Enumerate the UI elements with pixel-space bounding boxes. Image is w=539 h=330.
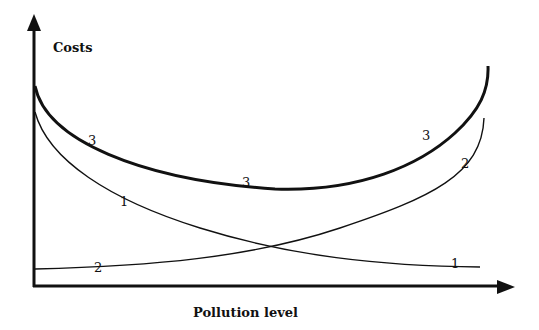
y-axis-title: Costs (53, 40, 93, 55)
curve-3-label-right: 3 (422, 128, 430, 143)
curve-1 (35, 112, 480, 267)
curve-2-label-left: 2 (94, 260, 102, 275)
curve-2 (35, 118, 484, 269)
curve-3-label-left: 3 (88, 133, 96, 148)
curve-2-label-right: 2 (461, 156, 469, 171)
x-axis-title: Pollution level (193, 305, 298, 320)
cost-curves-diagram: 3 3 3 1 1 2 2 Costs Pollution level (0, 0, 539, 330)
x-axis (33, 280, 515, 294)
y-axis-arrow-icon (27, 14, 41, 31)
y-axis (27, 14, 41, 287)
curve-1-label-right: 1 (451, 256, 459, 271)
curve-3 (35, 66, 488, 189)
curve-3-label-mid: 3 (242, 175, 250, 190)
x-axis-arrow-icon (497, 280, 515, 294)
curve-1-label-left: 1 (120, 194, 128, 209)
